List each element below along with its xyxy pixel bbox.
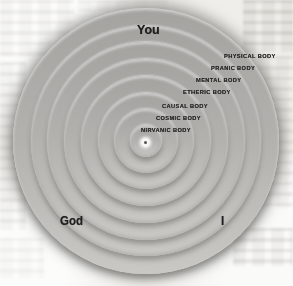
ring-label-pranic-body: PRANIC BODY (211, 65, 255, 71)
ring-label-etheric-body: ETHERIC BODY (183, 89, 231, 95)
ring-label-causal-body: CAUSAL BODY (162, 103, 208, 109)
label-god: God (60, 214, 83, 228)
ring-label-nirvanic-body: NIRVANIC BODY (141, 127, 191, 133)
ring-label-cosmic-body: COSMIC BODY (156, 115, 201, 121)
ring-label-physical-body: PHYSICAL BODY (224, 53, 276, 59)
ring-label-mental-body: MENTAL BODY (196, 77, 241, 83)
scanned-book-page: PHYSICAL BODYPRANIC BODYMENTAL BODYETHER… (0, 0, 293, 286)
center-dot-icon (144, 141, 147, 144)
seven-bodies-diagram: PHYSICAL BODYPRANIC BODYMENTAL BODYETHER… (0, 0, 293, 286)
center-point (141, 138, 150, 147)
label-you: You (137, 22, 160, 37)
label-i: I (221, 214, 224, 228)
